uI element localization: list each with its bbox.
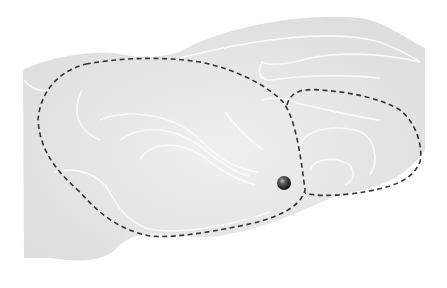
- landscape-surface: [23, 17, 425, 261]
- ball-marker: [277, 176, 291, 190]
- landscape-diagram: [0, 0, 447, 288]
